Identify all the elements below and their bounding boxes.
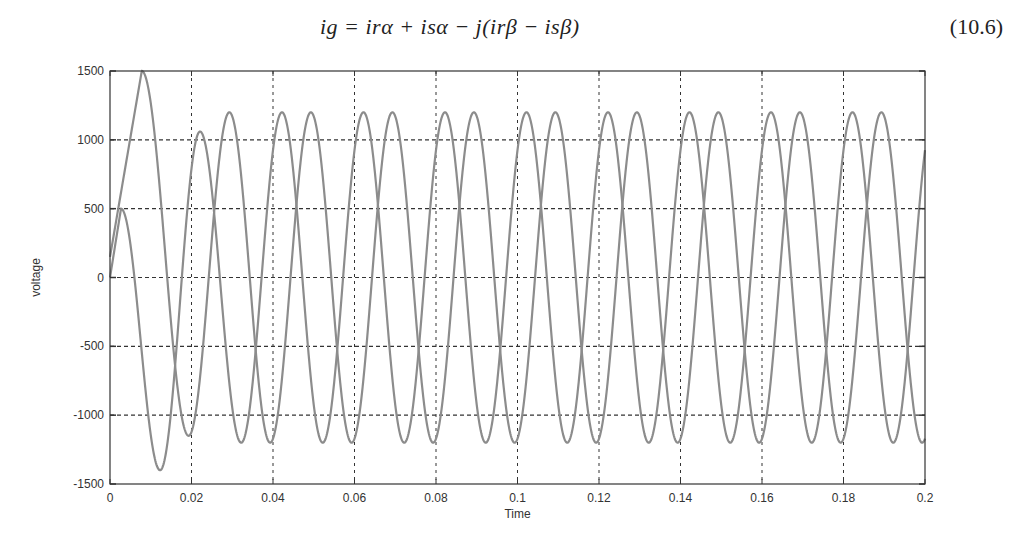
x-tick-label: 0.2 bbox=[917, 491, 934, 505]
x-axis-label: Time bbox=[504, 507, 531, 521]
x-tick-label: 0.04 bbox=[261, 491, 285, 505]
chart-svg: 00.020.040.060.080.10.120.140.160.180.2 … bbox=[0, 50, 1009, 552]
y-tick-label: 0 bbox=[97, 271, 104, 285]
x-tick-label: 0.18 bbox=[832, 491, 856, 505]
y-tick-label: -1500 bbox=[73, 477, 104, 491]
x-tick-label: 0.16 bbox=[750, 491, 774, 505]
x-tick-label: 0.14 bbox=[669, 491, 693, 505]
y-tick-label: 1500 bbox=[77, 64, 104, 78]
y-axis-label: voltage bbox=[29, 258, 43, 297]
grid-lines bbox=[110, 71, 925, 484]
voltage-time-chart: 00.020.040.060.080.10.120.140.160.180.2 … bbox=[0, 50, 1009, 552]
x-tick-label: 0.12 bbox=[587, 491, 611, 505]
x-tick-label: 0.08 bbox=[424, 491, 448, 505]
x-tick-label: 0.02 bbox=[180, 491, 204, 505]
equation-10-6: ig = irα + isα − j(irβ − isβ) bbox=[320, 14, 579, 40]
y-tick-label: 1000 bbox=[77, 133, 104, 147]
y-tick-label: -500 bbox=[80, 339, 104, 353]
x-tick-label: 0.1 bbox=[509, 491, 526, 505]
x-tick-label: 0 bbox=[107, 491, 114, 505]
equation-row: ig = irα + isα − j(irβ − isβ) (10.6) bbox=[0, 0, 1009, 50]
equation-number: (10.6) bbox=[950, 14, 1003, 40]
plot-curves bbox=[110, 71, 925, 470]
y-tick-label: -1000 bbox=[73, 408, 104, 422]
x-tick-label: 0.06 bbox=[343, 491, 367, 505]
y-tick-label: 500 bbox=[84, 202, 104, 216]
